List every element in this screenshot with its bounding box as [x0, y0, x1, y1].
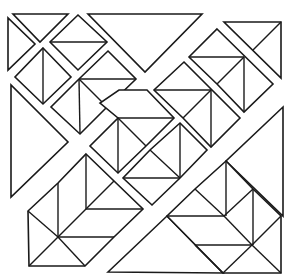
bottom-left-cluster [28, 154, 143, 266]
tangram-figure [0, 0, 287, 280]
left-hexagon-divider [79, 79, 80, 134]
tangram-svg [0, 0, 287, 280]
